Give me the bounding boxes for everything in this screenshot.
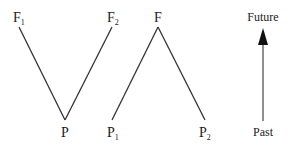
line-f1-to-p — [19, 27, 65, 120]
label-p: P — [61, 125, 69, 140]
converging-futures-diagram: F1 F2 P — [13, 10, 119, 140]
line-p2-to-f — [158, 27, 205, 120]
label-f1: F1 — [13, 10, 25, 27]
arrow-head-icon — [258, 28, 268, 45]
converging-pasts-diagram: F P1 P2 — [107, 10, 211, 142]
label-future: Future — [247, 10, 278, 24]
branching-time-diagram: F1 F2 P F P1 P2 Future Past — [0, 0, 298, 152]
label-p1: P1 — [107, 125, 119, 142]
label-f: F — [154, 10, 162, 25]
label-f2: F2 — [107, 10, 119, 27]
line-p1-to-f — [112, 27, 158, 120]
time-arrow: Future Past — [247, 10, 278, 139]
label-p2: P2 — [199, 125, 211, 142]
label-past: Past — [253, 125, 274, 139]
line-f2-to-p — [65, 27, 112, 120]
